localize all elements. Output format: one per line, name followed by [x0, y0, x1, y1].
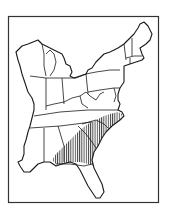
- eastern-us-map: [0, 0, 169, 212]
